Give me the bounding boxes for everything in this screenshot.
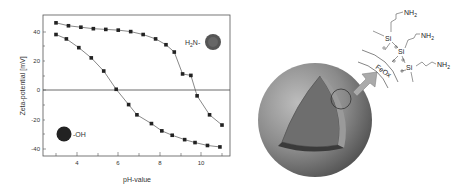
particle-scheme: FeOx Si Si Si NH2 NH2 NH2 [240,0,456,194]
data-point-marker [193,141,197,145]
amino-group-label: H2N- [185,39,201,48]
amine-label-3: NH2 [437,61,450,70]
data-point-marker [172,50,176,54]
x-axis-tick-labels: 4 6 8 10 [75,160,205,166]
series-amino-curve [54,21,224,127]
data-point-marker [183,138,187,142]
data-point-marker [208,113,212,117]
x-tick-8: 8 [158,160,162,166]
x-axis-ticks [56,152,222,156]
zeta-potential-chart: 40 20 0 -20 -40 4 6 8 10 pH-value Zeta-p… [0,0,240,194]
x-axis-label: pH-value [123,176,151,184]
amine-label-2: NH2 [421,32,434,41]
data-point-marker [135,113,139,117]
data-point-marker [54,33,58,37]
data-point-marker [189,74,193,78]
data-point-marker [150,122,154,126]
x-tick-6: 6 [116,160,120,166]
data-point-marker [116,28,120,32]
data-point-marker [67,24,71,28]
data-point-marker [54,21,58,25]
y-tick-0: 0 [37,87,41,93]
data-point-marker [104,28,108,32]
data-point-marker [114,87,118,91]
data-point-marker [170,133,174,137]
data-point-marker [141,33,145,37]
data-point-marker [79,25,83,29]
core-label: FeOx [374,63,392,79]
data-point-marker [218,145,222,149]
data-point-marker [160,129,164,133]
amine-groups: NH2 NH2 NH2 [404,9,450,70]
si-atom-3: Si [406,64,413,71]
data-point-marker [195,94,199,98]
si-atom-1: Si [385,35,392,42]
hydroxyl-particle-annotation: -OH [57,127,86,142]
amine-label-1: NH2 [404,9,417,18]
data-point-marker [181,72,185,76]
y-axis-ticks [43,32,46,149]
data-point-marker [127,103,131,107]
x-tick-10: 10 [198,160,205,166]
data-point-marker [89,56,93,60]
data-point-marker [92,27,96,31]
data-point-marker [65,37,69,41]
data-point-marker [77,46,81,50]
data-point-marker [129,30,133,34]
hydroxyl-particle-icon [57,127,72,142]
y-axis-label: Zeta-potential [mV] [19,56,27,115]
data-point-marker [164,43,168,47]
y-tick-neg40: -40 [31,146,40,152]
data-point-marker [154,37,158,41]
amino-particle-annotation: H2N- [185,34,221,50]
y-axis-tick-labels: 40 20 0 -20 -40 [31,29,40,152]
y-tick-20: 20 [33,58,40,64]
x-tick-4: 4 [75,160,79,166]
y-tick-40: 40 [33,29,40,35]
data-point-marker [102,69,106,73]
hydroxyl-group-label: -OH [73,131,86,138]
si-atom-2: Si [398,48,405,55]
y-tick-neg20: -20 [31,117,40,123]
data-point-marker [206,144,210,148]
data-point-marker [220,123,224,127]
